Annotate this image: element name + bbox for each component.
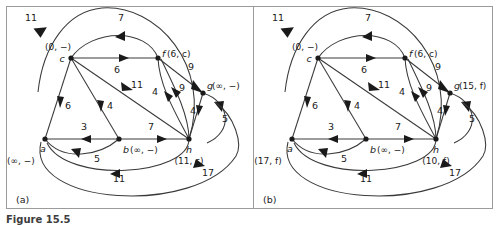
edge-weight-label: 4 <box>399 86 405 97</box>
arrowhead-c-b <box>97 100 104 112</box>
node-label-layer: a(∞, −)b(∞, −)c(0, −)f(6, c)g(∞, −)h(11,… <box>7 42 240 166</box>
edge-weight-label: 7 <box>148 121 154 132</box>
vertex-state-h: (10, f) <box>422 156 449 166</box>
arrowhead-c-b <box>344 100 351 112</box>
edge-h-g <box>189 93 203 139</box>
vertex-state-a: (∞, −) <box>7 156 35 166</box>
edge-weight-label: 9 <box>179 82 185 93</box>
vertex-g <box>447 90 452 95</box>
edge-h-a-bottom <box>47 139 189 170</box>
edge-weight-label: 11 <box>25 12 37 23</box>
vertex-c <box>315 55 320 60</box>
edge-h-g <box>436 93 450 139</box>
edge-weight-label: 7 <box>395 121 401 132</box>
edge-weight-label: 5 <box>469 113 475 124</box>
arrowhead-h-f-a <box>411 91 420 102</box>
vertex-state-f: (6, c) <box>414 49 437 59</box>
panel-b-label: (b) <box>263 194 276 205</box>
edge-c-b <box>318 58 366 139</box>
vertex-c <box>68 55 73 60</box>
vertex-a <box>42 136 47 141</box>
arrowhead-h-a-top <box>278 23 294 39</box>
edge-weight-label: 11 <box>131 79 143 90</box>
vertex-state-b: (∞, −) <box>377 145 405 155</box>
arrowhead-c-f <box>366 54 376 62</box>
vertex-a <box>289 136 294 141</box>
arrowhead-a-c <box>57 96 64 108</box>
vertex-layer <box>42 55 205 141</box>
edge-weight-label: 6 <box>114 64 120 75</box>
edge-weight-label: 11 <box>378 79 390 90</box>
arrowhead-b-a <box>81 135 91 143</box>
panel-b: 11769114964453751117 a(17, f)b(∞, −)c(0,… <box>254 6 501 209</box>
arrowhead-f-g <box>191 80 203 93</box>
vertex-state-h: (11, c) <box>174 156 203 166</box>
edge-weight-label: 4 <box>437 105 443 116</box>
arrowhead-a-c <box>304 96 311 108</box>
vertex-b <box>116 136 121 141</box>
vertex-state-f: (6, c) <box>167 49 190 59</box>
vertex-h <box>433 136 438 141</box>
arrowhead-b-a <box>328 135 338 143</box>
vertex-name-b: b <box>123 144 129 155</box>
vertex-state-a: (17, f) <box>254 156 281 166</box>
edge-weight-label: 6 <box>361 64 367 75</box>
edge-f-c <box>318 36 405 59</box>
edge-weight-label: 7 <box>365 12 371 23</box>
arrowhead-b-h <box>404 135 414 143</box>
edge-weight-label: 4 <box>152 86 158 97</box>
edge-weight-label: 11 <box>360 173 372 184</box>
arrowhead-b-h <box>157 135 167 143</box>
arrowhead-h-a-top <box>31 23 47 39</box>
vertex-state-c: (0, −) <box>292 42 318 52</box>
edge-c-h <box>318 58 436 139</box>
vertex-name-c: c <box>306 53 312 64</box>
edge-weight-label: 6 <box>312 100 318 111</box>
arrowhead-a-b <box>71 148 81 158</box>
edge-weight-label: 5 <box>94 153 100 164</box>
vertex-f <box>155 55 160 60</box>
edge-a-b <box>292 139 366 154</box>
vertex-name-c: c <box>59 53 65 64</box>
edge-weight-label: 5 <box>341 153 347 164</box>
graph-svg-b: 11769114964453751117 a(17, f)b(∞, −)c(0,… <box>254 6 501 209</box>
edge-weight-label: 3 <box>328 121 334 132</box>
edge-h-a-bottom <box>294 139 436 170</box>
vertex-name-a: a <box>40 143 46 154</box>
arrowhead-c-f <box>119 54 129 62</box>
vertex-state-g: (15, f) <box>459 81 486 91</box>
vertex-g <box>200 90 205 95</box>
vertex-name-h: h <box>433 144 439 155</box>
vertex-name-h: h <box>186 144 192 155</box>
edge-weight-label: 5 <box>222 113 228 124</box>
vertex-f <box>402 55 407 60</box>
edge-weight-label: 9 <box>426 82 432 93</box>
panel-a-label: (a) <box>16 194 29 205</box>
vertex-b <box>363 136 368 141</box>
edge-weight-label: 4 <box>190 105 196 116</box>
graph-svg-a: 11769114964453751117 a(∞, −)b(∞, −)c(0, … <box>7 6 254 209</box>
edge-weight-label: 4 <box>354 100 360 111</box>
arrowhead-a-b <box>318 148 328 158</box>
edge-c-b <box>71 58 119 139</box>
figure-root: 11769114964453751117 a(∞, −)b(∞, −)c(0, … <box>0 0 501 225</box>
vertex-state-b: (∞, −) <box>130 145 158 155</box>
figure-caption: Figure 15.5 <box>6 214 70 225</box>
edge-weight-label: 17 <box>449 167 461 178</box>
edge-weight-label: 11 <box>113 173 125 184</box>
edge-a-b <box>45 139 119 154</box>
edge-f-c <box>71 36 158 59</box>
edge-weight-label: 9 <box>188 61 194 72</box>
edge-weight-label: 9 <box>435 61 441 72</box>
edge-weight-label: 6 <box>65 100 71 111</box>
panel-a: 11769114964453751117 a(∞, −)b(∞, −)c(0, … <box>7 6 254 209</box>
edge-weight-label: 7 <box>118 12 124 23</box>
vertex-name-b: b <box>370 144 376 155</box>
edge-c-h <box>71 58 189 139</box>
vertex-state-c: (0, −) <box>45 42 71 52</box>
arrowhead-f-g <box>438 80 450 93</box>
edge-weight-label: 17 <box>202 167 214 178</box>
node-label-layer: a(17, f)b(∞, −)c(0, −)f(6, c)g(15, f)h(1… <box>254 42 486 166</box>
arrowhead-h-f-a <box>164 91 173 102</box>
edge-weight-label: 3 <box>81 121 87 132</box>
